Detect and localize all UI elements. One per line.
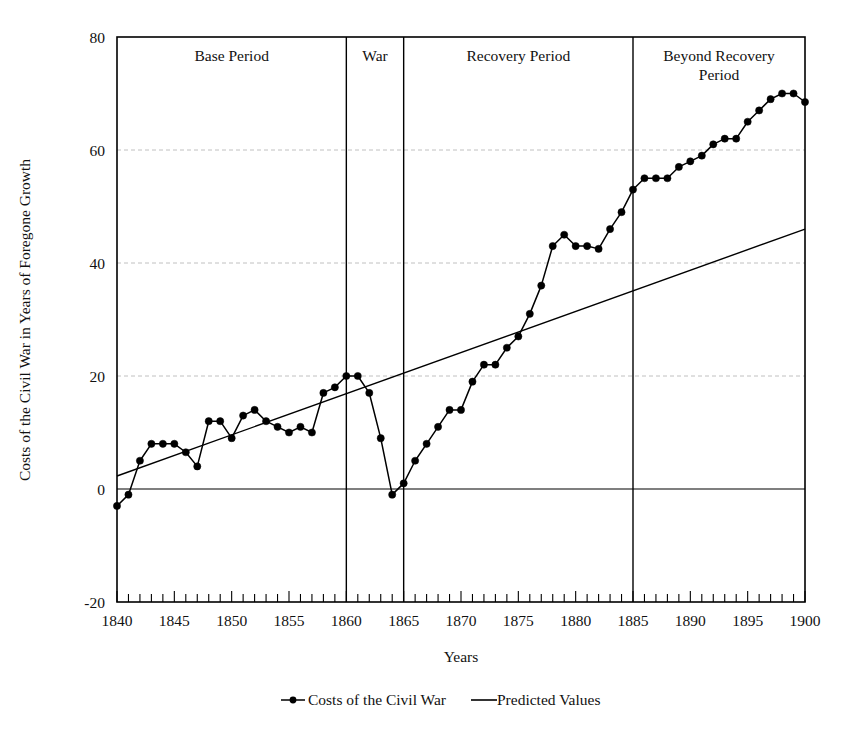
data-point-1899 xyxy=(790,90,797,97)
legend-label-costs: Costs of the Civil War xyxy=(308,691,447,708)
data-point-1876 xyxy=(526,310,533,317)
chart-legend: Costs of the Civil War Predicted Values xyxy=(281,691,600,708)
data-point-1868 xyxy=(434,423,441,430)
data-point-1852 xyxy=(251,406,258,413)
civil-war-costs-chart: 806040200-20 184018451850185518601865187… xyxy=(0,0,844,739)
data-point-1900 xyxy=(801,98,808,105)
data-point-1882 xyxy=(595,245,602,252)
data-point-1889 xyxy=(675,163,682,170)
data-point-1865 xyxy=(400,480,407,487)
y-tick-label-0: 0 xyxy=(97,481,105,498)
data-point-1840 xyxy=(113,502,120,509)
data-point-1854 xyxy=(274,423,281,430)
legend-swatch-marker-costs xyxy=(290,697,297,704)
data-point-1888 xyxy=(664,175,671,182)
y-tick-label-40: 40 xyxy=(90,255,106,272)
x-tick-label-1895: 1895 xyxy=(732,612,763,629)
data-point-1844 xyxy=(159,440,166,447)
data-point-1858 xyxy=(320,389,327,396)
data-point-1850 xyxy=(228,435,235,442)
x-tick-label-1855: 1855 xyxy=(274,612,305,629)
x-tick-label-1865: 1865 xyxy=(388,612,419,629)
data-point-1898 xyxy=(778,90,785,97)
data-point-1870 xyxy=(457,406,464,413)
data-point-1875 xyxy=(515,333,522,340)
data-point-1849 xyxy=(217,418,224,425)
data-point-1864 xyxy=(389,491,396,498)
data-point-1874 xyxy=(503,344,510,351)
data-point-1886 xyxy=(641,175,648,182)
chart-page: 806040200-20 184018451850185518601865187… xyxy=(0,0,844,739)
x-tick-label-1890: 1890 xyxy=(675,612,706,629)
data-point-1897 xyxy=(767,96,774,103)
data-point-1857 xyxy=(308,429,315,436)
period-label-3: Beyond Recovery xyxy=(663,47,775,64)
data-point-1845 xyxy=(171,440,178,447)
data-point-1883 xyxy=(606,226,613,233)
data-point-1895 xyxy=(744,118,751,125)
legend-label-predicted: Predicted Values xyxy=(497,691,600,708)
data-point-1855 xyxy=(285,429,292,436)
x-tick-label-1850: 1850 xyxy=(216,612,247,629)
data-point-1856 xyxy=(297,423,304,430)
x-tick-label-1845: 1845 xyxy=(159,612,190,629)
period-label-2: Recovery Period xyxy=(466,47,570,64)
x-tick-label-1860: 1860 xyxy=(331,612,362,629)
y-tick-label--20: -20 xyxy=(84,594,105,611)
x-tick-label-1885: 1885 xyxy=(618,612,649,629)
period-label-0: Base Period xyxy=(194,47,269,64)
data-point-1885 xyxy=(629,186,636,193)
y-axis-title: Costs of the Civil War in Years of Foreg… xyxy=(16,159,33,481)
x-tick-label-1840: 1840 xyxy=(102,612,133,629)
data-point-1842 xyxy=(136,457,143,464)
data-point-1869 xyxy=(446,406,453,413)
data-point-1894 xyxy=(733,135,740,142)
data-point-1843 xyxy=(148,440,155,447)
data-point-1880 xyxy=(572,242,579,249)
data-point-1862 xyxy=(366,389,373,396)
x-tick-label-1900: 1900 xyxy=(790,612,821,629)
data-point-1860 xyxy=(343,372,350,379)
x-tick-label-1875: 1875 xyxy=(503,612,534,629)
x-tick-label-1880: 1880 xyxy=(560,612,591,629)
y-tick-label-80: 80 xyxy=(90,29,106,46)
data-point-1861 xyxy=(354,372,361,379)
period-label-3: Period xyxy=(699,66,740,83)
data-point-1847 xyxy=(194,463,201,470)
y-tick-label-60: 60 xyxy=(90,142,106,159)
data-point-1879 xyxy=(561,231,568,238)
data-point-1871 xyxy=(469,378,476,385)
data-point-1841 xyxy=(125,491,132,498)
data-point-1848 xyxy=(205,418,212,425)
period-label-1: War xyxy=(362,47,388,64)
data-point-1859 xyxy=(331,384,338,391)
data-point-1873 xyxy=(492,361,499,368)
data-point-1867 xyxy=(423,440,430,447)
data-point-1891 xyxy=(698,152,705,159)
y-tick-label-20: 20 xyxy=(90,368,106,385)
data-point-1884 xyxy=(618,209,625,216)
data-point-1896 xyxy=(756,107,763,114)
x-tick-label-1870: 1870 xyxy=(446,612,477,629)
data-point-1853 xyxy=(262,418,269,425)
data-point-1863 xyxy=(377,435,384,442)
data-point-1892 xyxy=(710,141,717,148)
x-axis-title: Years xyxy=(444,648,479,665)
data-point-1877 xyxy=(538,282,545,289)
data-point-1890 xyxy=(687,158,694,165)
data-point-1893 xyxy=(721,135,728,142)
data-point-1851 xyxy=(240,412,247,419)
data-point-1881 xyxy=(584,242,591,249)
data-point-1866 xyxy=(412,457,419,464)
data-point-1887 xyxy=(652,175,659,182)
data-point-1878 xyxy=(549,242,556,249)
data-point-1846 xyxy=(182,449,189,456)
data-point-1872 xyxy=(480,361,487,368)
